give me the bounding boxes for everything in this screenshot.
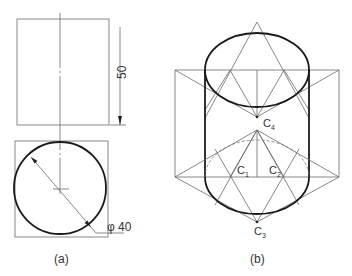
height-label: 50: [115, 65, 129, 79]
top-construction-line: [257, 70, 284, 117]
figure-a: 50 φ 40 (a): [14, 13, 132, 266]
point-c4: [256, 116, 259, 119]
caption-b: (b): [250, 252, 265, 266]
label-c3: C3: [254, 225, 266, 239]
top-construction-line: [284, 70, 309, 110]
label-c2: C2: [269, 164, 281, 178]
label-c4: C4: [263, 117, 275, 131]
label-c1: C1: [237, 164, 249, 178]
drawing-canvas: 50 φ 40 (a): [0, 0, 352, 276]
height-arrow-icon: [118, 116, 122, 125]
caption-a: (a): [54, 252, 69, 266]
point-c3: [256, 221, 259, 224]
diameter-label: φ 40: [107, 220, 132, 234]
top-construction-line: [230, 70, 257, 117]
diameter-arrow-start-icon: [31, 157, 38, 164]
front-view-rect: [17, 19, 109, 125]
figure-b: C4 C1 C2 C3 (b): [175, 22, 339, 266]
top-construction-line: [205, 70, 230, 110]
